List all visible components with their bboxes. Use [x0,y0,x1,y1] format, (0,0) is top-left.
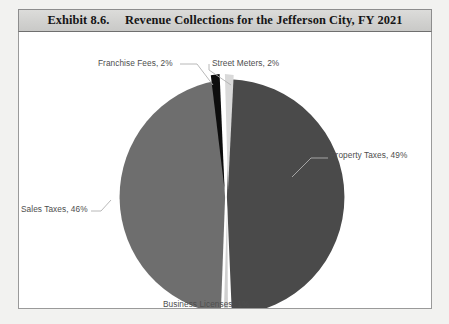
exhibit-figure: Exhibit 8.6. Revenue Collections for the… [18,9,432,309]
pie-slice-property-taxes[interactable] [227,79,345,309]
slice-label-sales-taxes: Sales Taxes, 46% [21,204,88,214]
exhibit-title: Revenue Collections for the Jefferson Ci… [125,13,403,27]
figure-title-bar: Exhibit 8.6. Revenue Collections for the… [18,9,432,32]
leader-line-sales-taxes [91,200,111,211]
pie-slice-sales-taxes[interactable] [120,81,226,310]
slice-label-property-taxes: Property Taxes, 49% [330,150,407,160]
slice-label-franchise-fees: Franchise Fees, 2% [98,58,173,68]
pie-chart [19,32,432,309]
slice-label-business-licenses: Business Licenses, 1% [163,299,249,309]
exhibit-number: Exhibit 8.6. [47,13,109,27]
page-title: Exhibit 8.6. Revenue Collections for the… [47,13,402,28]
slice-label-street-meters: Street Meters, 2% [212,58,279,68]
chart-plot-area: Franchise Fees, 2% Street Meters, 2% Pro… [18,32,432,309]
leader-line-franchise-fees [180,64,213,85]
